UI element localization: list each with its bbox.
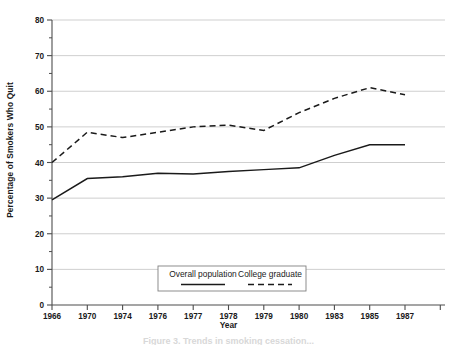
x-axis-ticks: 1966197019741976197719781979198019831985… xyxy=(43,305,440,321)
y-tick-label-40: 40 xyxy=(35,159,45,168)
figure-caption: Figure 3. Trends in smoking cessation... xyxy=(0,336,457,345)
y-tick-label-70: 70 xyxy=(35,52,45,61)
y-tick-label-10: 10 xyxy=(35,265,45,274)
y-tick-label-60: 60 xyxy=(35,87,45,96)
y-tick-label-30: 30 xyxy=(35,194,45,203)
legend-label-0: Overall population xyxy=(169,269,237,279)
y-tick-label-50: 50 xyxy=(35,123,45,132)
y-tick-label-20: 20 xyxy=(35,230,45,239)
y-tick-label-0: 0 xyxy=(39,301,44,310)
x-axis-title: Year xyxy=(0,320,457,330)
y-tick-label-80: 80 xyxy=(35,16,45,25)
series-line-overall-population xyxy=(52,145,405,200)
y-axis-ticks: 01020304050607080 xyxy=(35,16,52,310)
figure-smoking-cessation-line-chart: Percentage of Smokers Who Quit 010203040… xyxy=(0,0,457,345)
legend: Overall populationCollege graduate xyxy=(158,266,306,291)
chart-canvas: 0102030405060708019661970197419761977197… xyxy=(0,0,457,345)
figure-caption-text: Figure 3. Trends in smoking cessation... xyxy=(143,336,314,345)
legend-label-1: College graduate xyxy=(238,269,302,279)
data-series-group xyxy=(52,88,405,200)
x-axis-title-text: Year xyxy=(220,320,238,330)
series-line-college-graduate xyxy=(52,88,405,163)
